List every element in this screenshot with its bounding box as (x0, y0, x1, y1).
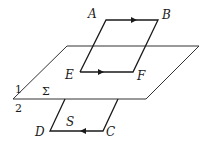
label-e: E (64, 68, 74, 82)
label-f: F (136, 69, 146, 83)
arrow-cd-icon (80, 128, 86, 134)
label-c: C (106, 125, 115, 139)
label-s: S (66, 115, 74, 129)
label-b: B (161, 8, 171, 22)
label-sigma: Σ (42, 85, 50, 98)
label-d: D (34, 125, 45, 139)
arrow-ef-icon (98, 69, 104, 75)
label-side-1: 1 (15, 83, 22, 96)
loop-through-plane-diagram: A B E F D C S Σ 1 2 (0, 0, 211, 147)
arrow-ab-icon (131, 17, 137, 23)
label-side-2: 2 (15, 102, 22, 115)
label-a: A (87, 7, 97, 21)
